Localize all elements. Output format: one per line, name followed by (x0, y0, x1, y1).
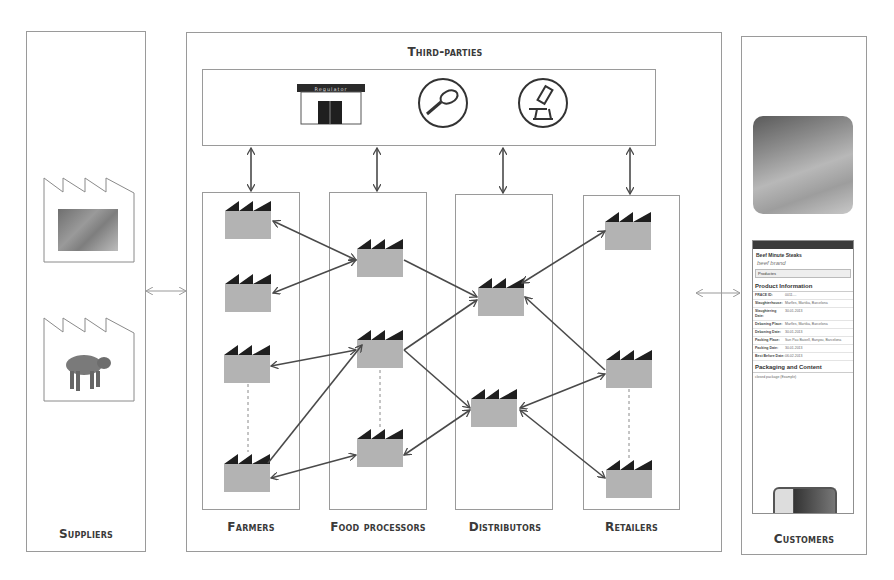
phone-info-row: Packing Place:Sun Pau Baixell, Banyou, B… (753, 337, 853, 345)
microscope-icon (517, 77, 569, 129)
suppliers-label: Suppliers (26, 527, 146, 541)
farmer-factory-3-icon (224, 345, 270, 383)
grass-field-photo (58, 209, 118, 251)
phone-product-title: Beef Minute Steaks (753, 249, 853, 259)
phone-info-row: Slaughterhouse:Marfles, Martika, Barcelo… (753, 300, 853, 308)
traceability-phone-screen: Beef Minute Steaks beef brand Productes … (752, 240, 854, 514)
distributor-factory-1-icon (478, 278, 524, 316)
third-parties-label: Third-parties (380, 45, 510, 59)
farmer-factory-1-icon (225, 201, 271, 239)
farmer-factory-4-icon (224, 454, 270, 492)
consumer-scanning-photo (753, 116, 853, 214)
regulator-building-icon: Regulator (296, 83, 366, 125)
svg-text:Regulator: Regulator (314, 86, 347, 93)
phone-info-row: Slaughtering Date:30.01.2013 (753, 308, 853, 321)
phone-info-row: FRACE ID:0011.... (753, 292, 853, 300)
suppliers-panel (26, 31, 146, 552)
distributors-label: Distributors (450, 520, 560, 534)
processor-factory-2-icon (357, 330, 403, 368)
retailer-factory-3-icon (606, 460, 652, 498)
phone-brand-logo: beef brand (753, 259, 853, 267)
phone-section-product-info: Product Information (753, 280, 853, 292)
phone-packaging-note: closed package (Example) (753, 373, 853, 381)
phone-info-row: Deboning Place:Marfles, Martika, Barcelo… (753, 321, 853, 329)
calf-icon (62, 349, 114, 395)
retailers-label: Retailers (583, 520, 680, 534)
food-processors-label: Food processors (318, 520, 438, 534)
processor-factory-1-icon (357, 239, 403, 277)
phone-info-row: Best Before Date:06.02.2013 (753, 353, 853, 361)
phone-status-bar (753, 241, 853, 249)
phone-info-row: Deboning Date:30.01.2013 (753, 329, 853, 337)
distributors-column (455, 194, 553, 510)
retailer-factory-2-icon (606, 350, 652, 388)
package-thumbnail (773, 487, 837, 513)
magnifying-glass-icon (417, 77, 469, 129)
farmer-factory-2-icon (225, 274, 271, 312)
distributor-factory-2-icon (471, 389, 517, 427)
customers-label: Customers (741, 532, 867, 546)
phone-dropdown: Productes (755, 269, 851, 278)
processor-factory-3-icon (357, 429, 403, 467)
farmers-label: Farmers (202, 520, 300, 534)
phone-section-packaging: Packaging and Content (753, 361, 853, 373)
retailer-factory-1-icon (605, 212, 651, 250)
phone-info-row: Packing Date:30.01.2013 (753, 345, 853, 353)
